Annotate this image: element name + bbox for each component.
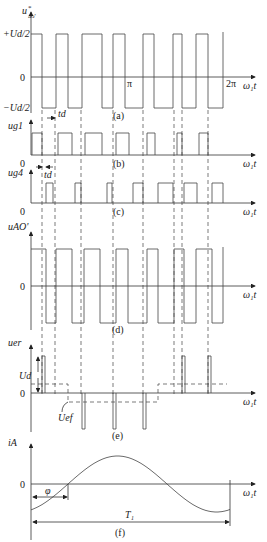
panel-a-y-label: u [22, 5, 27, 16]
panel-a-tick-2pi: 2π [226, 78, 236, 89]
panel-f-axes: ω₁t [31, 444, 257, 540]
panel-b-axes: ω₁t [31, 120, 257, 169]
panel-d-tick-zero: 0 [20, 281, 25, 292]
panel-f-y-label: iA [8, 437, 18, 448]
panel-f-tick-zero: 0 [20, 479, 25, 490]
panel-c-y-label: ug4 [8, 167, 23, 178]
panel-c-gate-pulses [46, 183, 223, 203]
panel-d-actual-phase-voltage [31, 247, 223, 323]
panel-f-phi-label: φ [45, 485, 51, 496]
panel-a-tick-pi: π [127, 78, 132, 89]
panel-e-caption: (e) [112, 430, 123, 442]
panel-c-tick-zero: 0 [20, 206, 25, 217]
x-axis-label: ω₁t [243, 206, 257, 217]
panel-e-tick-zero: 0 [20, 388, 25, 399]
panel-c-caption: (c) [113, 206, 124, 218]
panel-a-tick-plus: +Ud/2 [3, 28, 30, 39]
panel-a-y-label-sub: ao' [28, 12, 36, 20]
panel-b-gate-pulses [32, 133, 208, 155]
panel-e-uef-label: Uef [58, 412, 74, 423]
panel-b-y-label: ug1 [8, 120, 23, 131]
panel-a-y-label-star: * [28, 4, 32, 12]
panel-e-ud-label: Ud [19, 370, 32, 381]
x-axis-label: ω₁t [243, 158, 257, 169]
panel-d-y-label: uAO' [8, 221, 29, 232]
uef-leader-line [62, 402, 68, 412]
dashed-alignment-lines [42, 110, 208, 395]
panel-c-td-label: td [44, 169, 53, 180]
panel-d-caption: (d) [112, 324, 124, 336]
x-axis-label: ω₁t [243, 396, 257, 407]
waveform-panels: ω₁tu*ao'+Ud/20−Ud/2π2π(a)tdω₁tug10(b)ω₁t… [3, 4, 257, 540]
panel-a-td-label: td [58, 108, 67, 119]
panel-f-period-label: T₁ [125, 509, 134, 520]
panel-e-y-label: uer [8, 337, 21, 348]
panel-a-phase-voltage-reference [31, 32, 223, 108]
x-axis-label: ω₁t [243, 289, 257, 300]
panel-a-tick-minus: −Ud/2 [3, 102, 30, 113]
panel-f-caption: (f) [115, 527, 125, 539]
x-axis-label: ω₁t [243, 487, 257, 498]
x-axis-label: ω₁t [243, 80, 257, 91]
panel-a-caption: (a) [113, 110, 124, 122]
pwm-deadtime-waveform-diagram: ω₁tu*ao'+Ud/20−Ud/2π2π(a)tdω₁tug10(b)ω₁t… [0, 0, 267, 542]
panel-a-tick-zero: 0 [20, 72, 25, 83]
panel-b-caption: (b) [113, 158, 125, 170]
